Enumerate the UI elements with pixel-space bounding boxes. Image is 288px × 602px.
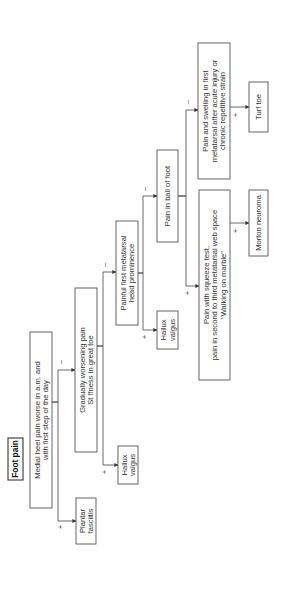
node-text-line: Morton neuroma bbox=[254, 194, 263, 250]
minus-sign-ball-swelling: – bbox=[184, 100, 191, 104]
node-painful: Painful first metatarsalhead prominence bbox=[116, 221, 138, 325]
decision-tree-diagram: Foot painMedial heel pain worse in a.m. … bbox=[0, 0, 288, 602]
node-swelling: Pain and swelling in firstmetatarsal aft… bbox=[198, 43, 230, 179]
edge-ball-to-swelling bbox=[178, 110, 198, 196]
node-morton: Morton neuroma bbox=[249, 190, 268, 256]
minus-sign-gradual-painful: – bbox=[101, 263, 108, 267]
node-text-line: valgus bbox=[168, 319, 177, 341]
edge-heel-to-plantar bbox=[52, 402, 76, 521]
plus-sign-ball-squeeze: + bbox=[184, 291, 191, 295]
node-text-line: St ffness in great toe bbox=[86, 335, 95, 405]
node-text-line: Pain in ball of foot bbox=[163, 165, 172, 226]
node-text-line: with first step of the day bbox=[41, 380, 50, 461]
node-text-line: fasciitis bbox=[86, 508, 95, 533]
node-text-line: valgus bbox=[128, 454, 137, 476]
node-text-line: Foot pain bbox=[10, 440, 20, 478]
node-plantar: Plantarfasciitis bbox=[76, 498, 96, 544]
node-turf: Turf toe bbox=[249, 82, 268, 132]
node-hallux2: Halluxvalgus bbox=[157, 311, 178, 349]
node-text-line: "Walking on marble" bbox=[219, 251, 228, 319]
plus-sign-gradual-hallux1: + bbox=[101, 470, 108, 474]
minus-sign-heel-gradual: – bbox=[57, 360, 64, 364]
edge-ball-to-squeeze bbox=[178, 196, 199, 286]
node-hallux1: Halluxvalgus bbox=[118, 446, 138, 484]
node-heel: Medial heel pain worse in a.m. andwith f… bbox=[30, 332, 52, 508]
plus-sign-heel-plantar: + bbox=[57, 525, 64, 529]
diagram-title-node: Foot pain bbox=[8, 438, 23, 480]
edge-heel-to-gradual bbox=[52, 370, 75, 402]
node-ball: Pain in ball of foot bbox=[157, 150, 178, 242]
node-gradual: Gradually worsening painSt ffness in gre… bbox=[75, 288, 97, 452]
edge-gradual-to-painful bbox=[97, 272, 116, 346]
node-text-line: Turf toe bbox=[254, 94, 263, 120]
node-text-line: chronic repetitive strain bbox=[218, 72, 227, 150]
node-text-line: head prominence bbox=[127, 244, 136, 303]
plus-sign-painful-hallux2: + bbox=[141, 335, 148, 339]
node-squeeze: Pain with squeeze test,pain in second to… bbox=[199, 190, 230, 380]
minus-sign-painful-ball: – bbox=[141, 187, 148, 191]
nodes-layer: Foot painMedial heel pain worse in a.m. … bbox=[8, 43, 268, 544]
edge-painful-to-hallux2 bbox=[138, 273, 157, 330]
edge-gradual-to-hallux1 bbox=[97, 346, 118, 465]
plus-sign-squeeze-morton: + bbox=[232, 229, 239, 233]
edge-painful-to-ball bbox=[138, 196, 157, 273]
plus-sign-swelling-turf: + bbox=[232, 113, 239, 117]
